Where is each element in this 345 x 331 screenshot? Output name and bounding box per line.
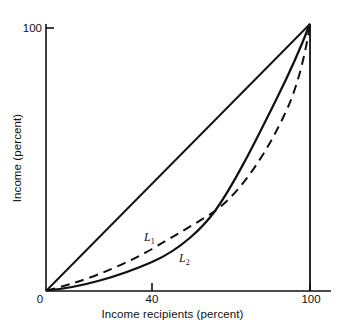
y-axis-title: Income (percent): [11, 78, 23, 238]
x-tick-label-0: 0: [34, 293, 46, 305]
curve-label-l1-base: L: [144, 230, 151, 244]
x-axis-title: Income recipients (percent): [0, 308, 345, 320]
curve-label-l2: L2: [179, 251, 190, 267]
curve-label-l1-sub: 1: [151, 237, 155, 246]
x-tick-label-40: 40: [140, 293, 164, 305]
x-tick-label-100: 100: [297, 293, 325, 305]
plot-canvas: [0, 0, 345, 331]
curve-label-l2-base: L: [179, 251, 186, 265]
y-tick-label-100: 100: [18, 22, 42, 34]
curve-label-l2-sub: 2: [186, 258, 190, 267]
lorenz-curve-figure: 100 0 40 100 Income recipients (percent)…: [0, 0, 345, 331]
curve-label-l1: L1: [144, 230, 155, 246]
